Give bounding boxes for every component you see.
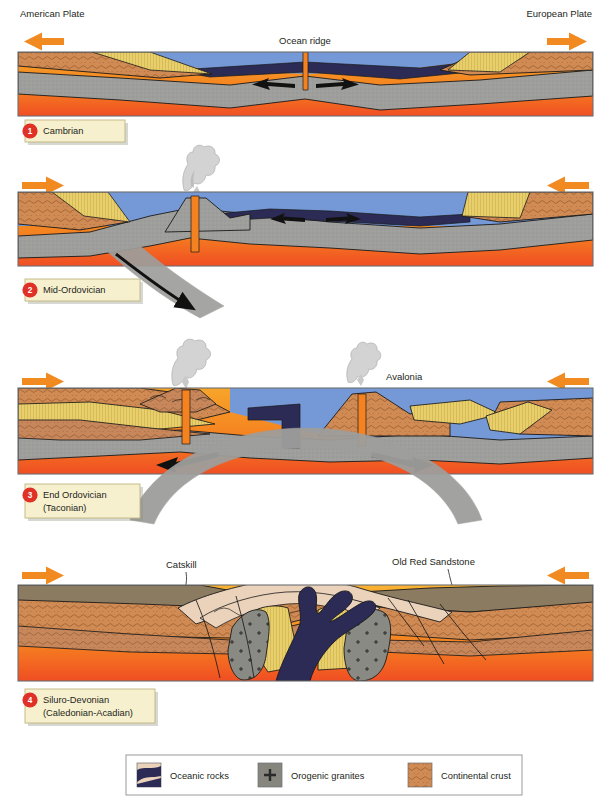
stage-name-3-line2: (Taconian)	[43, 503, 86, 513]
stage-name-1: Cambrian	[43, 126, 83, 136]
avalonia-label: Avalonia	[386, 371, 423, 382]
stage-number-4: 4	[28, 696, 33, 705]
legend-label-oceanic: Oceanic rocks	[170, 771, 229, 781]
old-red-sandstone-label: Old Red Sandstone	[392, 556, 475, 567]
figure-root: American Plate European Plate Ocean ridg…	[0, 0, 611, 801]
volcano-plume-2	[183, 145, 220, 198]
arrow-left-icon-4	[547, 567, 589, 585]
stage-name-4-line2: (Caledonian-Acadian)	[43, 708, 133, 718]
stage-label-2: 2 Mid-Ordovician	[22, 279, 143, 304]
stage-number-1: 1	[28, 127, 33, 136]
volcano-plume-3-right	[347, 342, 381, 386]
orogenic-granites-swatch	[258, 763, 282, 787]
arrow-right-icon-4	[22, 567, 64, 585]
legend: Oceanic rocks Orogenic granites Continen…	[126, 755, 522, 795]
stage-name-3: End Ordovician	[43, 490, 107, 500]
arrow-left-icon	[24, 33, 64, 51]
stage-number-3: 3	[28, 491, 33, 500]
stage-name-4: Siluro-Devonian	[43, 695, 109, 705]
european-plate-label: European Plate	[527, 8, 593, 19]
stage-name-2: Mid-Ordovician	[43, 285, 106, 295]
ocean-ridge-label: Ocean ridge	[279, 35, 331, 46]
arrow-right-icon	[547, 33, 587, 51]
oceanic-rocks-swatch	[137, 763, 161, 787]
stage-label-1: 1 Cambrian	[22, 120, 128, 145]
continental-crust-swatch	[408, 763, 432, 787]
volcano-plume-3-left	[172, 339, 211, 389]
legend-label-granites: Orogenic granites	[291, 771, 365, 781]
american-plate-label: American Plate	[20, 8, 84, 19]
catskill-label: Catskill	[166, 559, 197, 570]
stage-label-3: 3 End Ordovician (Taconian)	[22, 484, 143, 521]
panel-4-siluro-devonian: Catskill Old Red Sandstone	[18, 556, 593, 681]
legend-label-continental: Continental crust	[441, 771, 511, 781]
panel-1-cambrian: Ocean ridge	[18, 35, 593, 116]
stage-number-2: 2	[28, 286, 33, 295]
stage-label-4: 4 Siluro-Devonian (Caledonian-Acadian)	[22, 689, 158, 726]
